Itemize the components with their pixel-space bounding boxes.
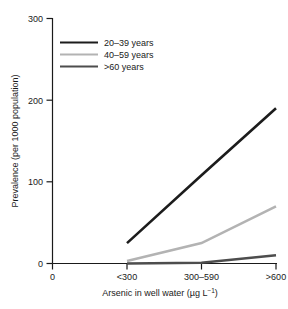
x-tick-label-gt600: >600 [266, 272, 286, 282]
x-tick-label-0: 0 [50, 272, 55, 282]
chart-figure: 300 200 100 0 0 <300 300–590 >600 Arseni… [0, 0, 288, 309]
x-tick-label-300-590: 300–590 [184, 272, 219, 282]
y-axis-title: Prevalence (per 1000 population) [10, 74, 20, 207]
y-tick-label-100: 100 [28, 177, 43, 187]
legend-label-20-39-years: 20–39 years [104, 38, 154, 48]
legend-item-40-59-years: 40–59 years [60, 50, 154, 60]
prevalence-vs-arsenic-line-chart: 300 200 100 0 0 <300 300–590 >600 Arseni… [0, 0, 288, 309]
series-line-20-39-years [127, 108, 276, 243]
legend-label-40-59-years: 40–59 years [104, 50, 154, 60]
x-axis-title: Arsenic in well water (µg L−1) [102, 287, 218, 299]
legend-item-20-39-years: 20–39 years [60, 38, 154, 48]
y-tick-label-0: 0 [38, 259, 43, 269]
legend-label-over-60-years: >60 years [104, 62, 144, 72]
y-tick-label-200: 200 [28, 96, 43, 106]
chart-legend: 20–39 years 40–59 years >60 years [60, 38, 154, 72]
y-tick-label-300: 300 [28, 14, 43, 24]
series-line-40-59-years [127, 206, 276, 261]
x-tick-label-lt300: <300 [117, 272, 137, 282]
legend-item-over-60-years: >60 years [60, 62, 144, 72]
